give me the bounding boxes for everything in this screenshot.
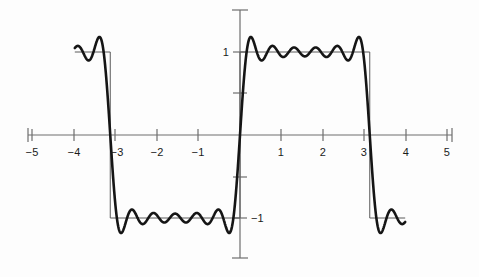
x-tick-label--1: −1 bbox=[192, 146, 205, 158]
x-tick-label-2: 2 bbox=[320, 146, 326, 158]
x-tick-label--3: −3 bbox=[111, 146, 124, 158]
plot-canvas bbox=[0, 0, 479, 277]
x-tick-label-5: 5 bbox=[444, 146, 450, 158]
y-tick-label-1: 1 bbox=[223, 46, 229, 58]
x-tick-label-1: 1 bbox=[278, 146, 284, 158]
x-tick-label--2: −2 bbox=[151, 146, 164, 158]
x-tick-label-3: 3 bbox=[361, 146, 367, 158]
x-tick-label--5: −5 bbox=[26, 146, 39, 158]
y-tick-label--1: −1 bbox=[251, 212, 264, 224]
x-tick-label--4: −4 bbox=[68, 146, 81, 158]
gibbs-phenomenon-plot: −5 −4 −3 −2 −1 1 2 3 4 5 1 −1 bbox=[0, 0, 479, 277]
x-tick-label-4: 4 bbox=[403, 146, 409, 158]
